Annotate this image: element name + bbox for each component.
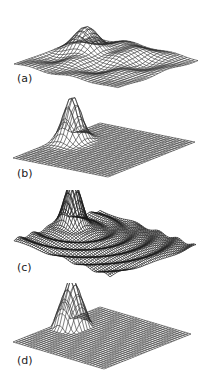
panel-label-d: (d) [17,354,33,367]
panel-a: (a) [0,0,211,95]
panel-label-c: (c) [17,261,32,274]
panel-c: (c) [0,190,211,285]
surface-plot-d [0,283,211,388]
panel-label-a: (a) [17,72,32,85]
panel-label-b: (b) [17,167,33,180]
surface-plot-c [0,190,211,285]
panel-b: (b) [0,95,211,190]
panel-d: (d) [0,283,211,388]
